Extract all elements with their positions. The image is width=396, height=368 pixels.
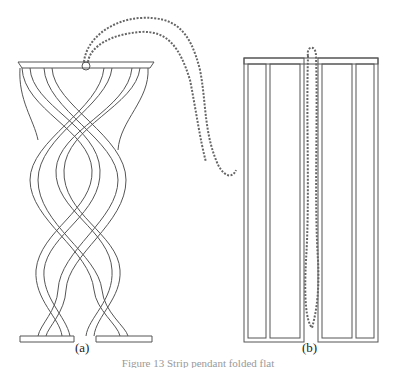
chain-b (305, 48, 318, 328)
panel-a-label: (a) (75, 340, 89, 356)
panel-b-label: (b) (302, 340, 317, 356)
figure-illustration (0, 0, 396, 368)
panel-b-strips (244, 58, 378, 342)
figure-caption: Figure 13 Strip pendant folded flat (0, 357, 396, 368)
panel-a-pendant (18, 62, 154, 342)
